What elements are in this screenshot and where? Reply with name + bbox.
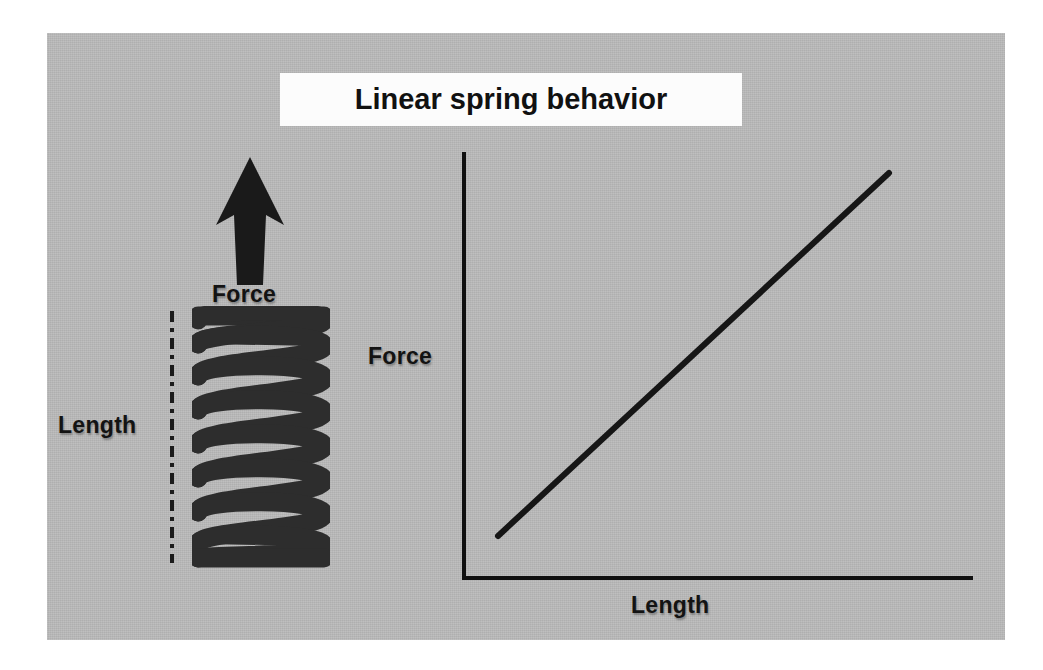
plot-x-axis-label: Length	[631, 592, 709, 619]
plot-y-axis-label: Force	[368, 343, 432, 370]
force-arrow-label: Force	[212, 281, 276, 308]
title-box: Linear spring behavior	[280, 73, 742, 126]
spring-coil-illustration	[192, 306, 330, 568]
force-vs-length-plot	[440, 140, 1000, 600]
slide-figure: Linear spring behavior Force	[0, 0, 1043, 670]
force-arrow-icon	[214, 157, 286, 285]
length-label: Length	[58, 412, 136, 439]
page-title: Linear spring behavior	[355, 83, 668, 116]
plot-data-line	[498, 173, 889, 536]
length-centerline	[170, 311, 174, 563]
